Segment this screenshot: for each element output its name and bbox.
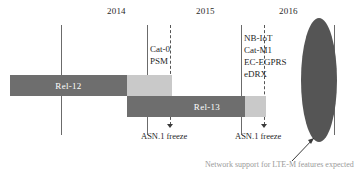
- figure-caption: Network support for LTE-M features expec…: [205, 160, 354, 169]
